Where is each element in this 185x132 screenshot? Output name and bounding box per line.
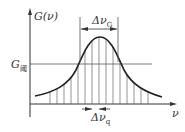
gain-curve [35,37,162,97]
y-axis-arrow-icon [28,8,32,15]
mode-spacing-sub: q [106,118,110,126]
gain-bandwidth-label: ΔνG [92,15,112,29]
longitudinal-mode-lines [50,37,148,104]
mode-spacing-label: Δνq [91,112,110,126]
x-axis-arrow-icon [170,102,177,106]
bandwidth-arrow-left-icon [81,27,88,31]
mode-spacing-main: Δν [91,111,106,124]
threshold-sub: 阈 [20,65,27,73]
y-axis-label: G(ν) [34,11,58,22]
x-axis-label: ν [172,108,179,119]
gain-bandwidth-main: Δν [92,14,107,27]
gain-bandwidth-sub: G [107,21,113,29]
threshold-main: G [11,58,20,71]
gain-curve-diagram: G(ν) ΔνG G阈 Δνq ν [0,0,185,132]
threshold-label: G阈 [11,59,27,73]
